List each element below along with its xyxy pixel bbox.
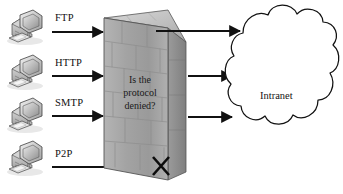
diagram-canvas: FTP HTTP SMTP P2P Is the protocol denied… xyxy=(0,0,343,194)
host-icon-smtp xyxy=(7,98,43,133)
protocol-label-ftp: FTP xyxy=(55,12,74,23)
intranet-cloud-shape xyxy=(225,5,338,124)
host-icon-ftp xyxy=(7,10,43,45)
protocol-label-p2p: P2P xyxy=(55,148,73,159)
firewall-question-line1: Is the xyxy=(110,74,170,87)
host-icon-p2p xyxy=(7,141,43,176)
firewall-question-line2: protocol xyxy=(110,87,170,100)
host-icon-http xyxy=(7,55,43,90)
intranet-label: Intranet xyxy=(260,90,293,101)
protocol-label-smtp: SMTP xyxy=(55,97,83,108)
firewall-question-line3: denied? xyxy=(110,100,170,113)
protocol-label-http: HTTP xyxy=(55,57,82,68)
